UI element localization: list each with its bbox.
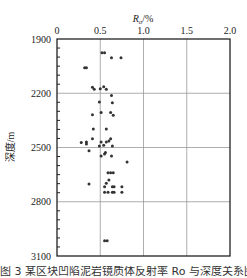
data-point xyxy=(88,183,91,186)
y-tick-labels: 19002200250028003100 xyxy=(31,34,51,262)
data-point xyxy=(112,114,115,117)
data-points xyxy=(80,51,129,242)
data-point xyxy=(100,154,103,157)
x-tick-labels: 00.51.01.52.0 xyxy=(55,25,237,36)
data-point xyxy=(105,88,108,91)
data-point xyxy=(107,179,110,182)
grid-lines xyxy=(57,39,230,256)
data-point xyxy=(102,144,105,147)
data-point xyxy=(103,185,106,188)
data-point xyxy=(103,51,106,54)
data-point xyxy=(103,153,106,156)
data-point xyxy=(120,191,123,194)
data-point xyxy=(102,85,105,88)
data-point xyxy=(105,128,108,131)
data-point xyxy=(93,88,96,91)
data-point xyxy=(107,171,110,174)
y-tick-label: 2500 xyxy=(31,142,51,153)
data-point xyxy=(106,239,109,242)
svg-text:深度/m: 深度/m xyxy=(4,132,16,163)
data-point xyxy=(80,141,83,144)
data-point xyxy=(110,94,113,97)
y-tick-label: 2200 xyxy=(31,88,51,99)
data-point xyxy=(100,111,103,114)
data-point xyxy=(98,100,101,103)
data-point xyxy=(120,185,123,188)
figure-caption: 图 3 某区块凹陷泥岩镜质体反射率 Ro 与深度关系图 xyxy=(0,266,247,278)
data-point xyxy=(98,145,101,148)
data-point xyxy=(126,160,129,163)
data-point xyxy=(109,111,112,114)
data-point xyxy=(107,191,110,194)
data-point xyxy=(110,56,113,59)
data-point xyxy=(85,143,88,146)
x-tick-label: 0 xyxy=(55,25,60,36)
data-point xyxy=(109,137,112,140)
x-tick-label: 1.0 xyxy=(137,25,150,36)
data-point xyxy=(120,56,123,59)
data-point xyxy=(113,185,116,188)
data-point xyxy=(111,101,114,104)
data-point xyxy=(100,141,103,144)
data-point xyxy=(92,128,95,131)
data-point xyxy=(99,87,102,90)
data-point xyxy=(88,149,91,152)
x-tick-label: 0.5 xyxy=(94,25,107,36)
y-tick-label: 3100 xyxy=(31,251,51,262)
data-point xyxy=(110,154,113,157)
data-point xyxy=(105,141,108,144)
data-point xyxy=(112,171,115,174)
data-point xyxy=(103,239,106,242)
y-tick-label: 2800 xyxy=(31,196,51,207)
data-point xyxy=(91,137,94,140)
y-axis-title: 深度/m xyxy=(4,132,16,163)
x-tick-label: 2.0 xyxy=(224,25,237,36)
y-tick-label: 1900 xyxy=(31,34,51,45)
data-point xyxy=(91,113,94,116)
data-point xyxy=(100,51,103,54)
data-point xyxy=(113,191,116,194)
data-point xyxy=(109,171,112,174)
x-tick-label: 1.5 xyxy=(181,25,194,36)
data-point xyxy=(111,145,114,148)
data-point xyxy=(85,66,88,69)
data-point xyxy=(105,182,108,185)
data-point xyxy=(103,191,106,194)
